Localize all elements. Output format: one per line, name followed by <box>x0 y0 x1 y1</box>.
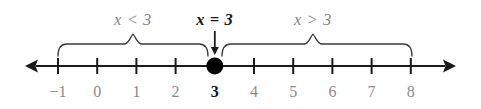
tick-label-5: 5 <box>289 83 297 101</box>
tick-label-6: 6 <box>328 83 336 101</box>
tick-label-7: 7 <box>368 83 376 101</box>
solid-point-at-3 <box>206 58 223 75</box>
tick-label-4: 4 <box>250 83 258 101</box>
label-x-equals-3: x = 3 <box>196 10 233 30</box>
down-arrow-icon <box>211 47 219 55</box>
label-x-greater-than-3: x > 3 <box>294 10 332 30</box>
tick-label-3: 3 <box>211 83 219 101</box>
tick-label-2: 2 <box>172 83 180 101</box>
tick-label-1: 1 <box>132 83 140 101</box>
axis-group <box>25 60 456 73</box>
label-x-less-than-3: x < 3 <box>114 10 152 30</box>
brace-less-than <box>58 34 208 56</box>
point-group <box>206 58 223 75</box>
pointer-arrow-group <box>211 31 219 55</box>
tick-label--1: −1 <box>49 83 66 101</box>
tick-label-8: 8 <box>407 83 415 101</box>
tick-label-0: 0 <box>93 83 101 101</box>
brace-greater-than <box>222 34 412 56</box>
number-line-figure: x < 3x = 3x > 3 −1012345678 <box>0 0 481 109</box>
braces-group <box>58 34 412 56</box>
